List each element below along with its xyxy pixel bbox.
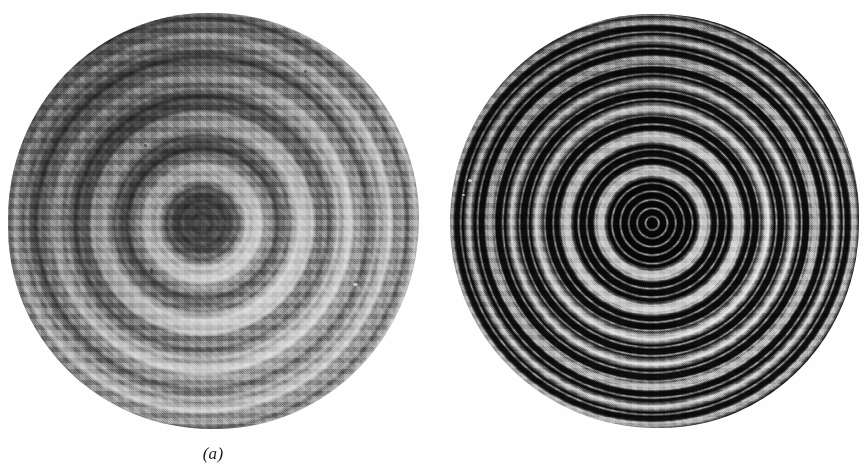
figure-plate: (a) (b)	[0, 0, 868, 473]
interference-pattern-a	[8, 13, 419, 429]
panel-caption-a: (a)	[153, 444, 273, 464]
plate-shading-b	[450, 14, 859, 428]
interference-pattern-b	[450, 14, 859, 428]
figure-panel-a: (a)	[0, 0, 434, 473]
figure-panel-b: (b)	[434, 0, 868, 473]
plate-highlight-a	[8, 13, 419, 429]
